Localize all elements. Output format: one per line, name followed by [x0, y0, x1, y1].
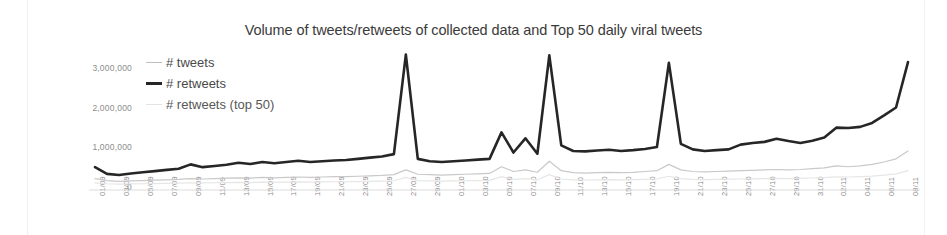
series-line-retweets: [95, 55, 908, 175]
chart-plot-area: [0, 0, 947, 235]
series-line-retweets-top-50: [95, 171, 908, 184]
chart-screenshot: Volume of tweets/retweets of collected d…: [0, 0, 947, 235]
